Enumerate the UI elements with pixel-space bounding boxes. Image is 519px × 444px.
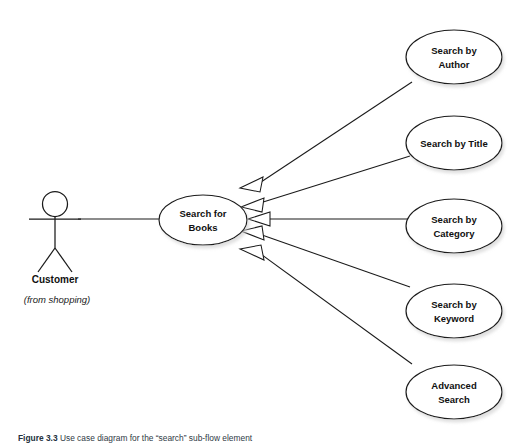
- use-case-search-by-keyword[interactable]: Search by Keyword: [406, 284, 502, 338]
- use-case-search-by-category[interactable]: Search by Category: [406, 199, 502, 253]
- figure-caption-text: Use case diagram for the “search” sub-fl…: [60, 433, 252, 443]
- use-case-label-line1: Search by Title: [420, 138, 487, 149]
- use-case-label-line1: Search by: [431, 299, 477, 310]
- use-case-search-by-author[interactable]: Search by Author: [406, 30, 502, 84]
- arrowhead-advanced: [240, 245, 264, 260]
- figure-caption-number: Figure 3.3: [18, 433, 58, 443]
- generalization-line-title: [260, 156, 410, 203]
- use-case-label-line2: Books: [188, 222, 217, 233]
- actor-head: [43, 192, 68, 217]
- use-case-diagram: Customer (from shopping) Search for Book…: [0, 0, 519, 444]
- actor-label-customer: Customer: [32, 274, 79, 285]
- actor-stereotype-label: (from shopping): [24, 294, 91, 305]
- generalization-line-advanced: [258, 252, 412, 364]
- use-case-ellipse: [406, 199, 502, 253]
- use-case-label-line1: Search by: [431, 45, 477, 56]
- use-case-search-by-title[interactable]: Search by Title: [406, 116, 502, 170]
- use-case-label-line2: Search: [438, 394, 470, 405]
- figure-caption: Figure 3.3 Use case diagram for the “sea…: [18, 433, 498, 444]
- use-case-ellipse: [406, 30, 502, 84]
- use-case-ellipse: [406, 284, 502, 338]
- generalization-line-keyword: [262, 235, 410, 287]
- use-case-label-line2: Author: [438, 59, 469, 70]
- arrowhead-category: [248, 212, 270, 226]
- use-case-label-line2: Category: [433, 228, 475, 239]
- use-case-search-for-books[interactable]: Search for Books: [159, 195, 247, 245]
- generalization-lines: [258, 82, 412, 364]
- actor-customer[interactable]: Customer (from shopping): [24, 192, 91, 306]
- use-case-label-line1: Search by: [431, 214, 477, 225]
- use-case-ellipse: [406, 365, 502, 419]
- use-case-label-line1: Advanced: [431, 380, 477, 391]
- use-case-label-line1: Search for: [180, 208, 227, 219]
- use-case-advanced-search[interactable]: Advanced Search: [406, 365, 502, 419]
- arrowhead-title: [241, 198, 264, 212]
- diagram-canvas: Customer (from shopping) Search for Book…: [0, 0, 519, 444]
- generalization-line-author: [258, 82, 412, 184]
- use-case-label-line2: Keyword: [434, 313, 474, 324]
- arrowhead-author: [240, 177, 263, 192]
- actor-leg-right: [55, 248, 72, 272]
- use-case-ellipse: [159, 195, 247, 245]
- actor-leg-left: [38, 248, 55, 272]
